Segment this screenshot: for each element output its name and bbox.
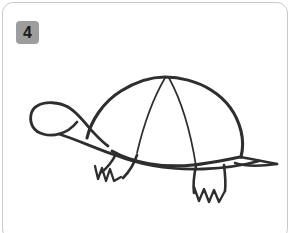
shell-dome-outline bbox=[87, 77, 243, 157]
screenshot-root: 4 bbox=[0, 0, 297, 233]
shell-bottom-edge bbox=[112, 151, 241, 166]
step-number-label: 4 bbox=[23, 25, 32, 41]
turtle-rear-leg-back bbox=[224, 165, 225, 191]
shell-division-line-right bbox=[169, 78, 196, 166]
rear-foot-claws bbox=[194, 187, 225, 202]
shell-division-line-left bbox=[137, 78, 165, 153]
front-foot-claws bbox=[95, 166, 121, 181]
drawing-step-card: 4 bbox=[2, 2, 288, 233]
turtle-illustration bbox=[3, 3, 297, 233]
step-number-badge: 4 bbox=[16, 21, 39, 44]
